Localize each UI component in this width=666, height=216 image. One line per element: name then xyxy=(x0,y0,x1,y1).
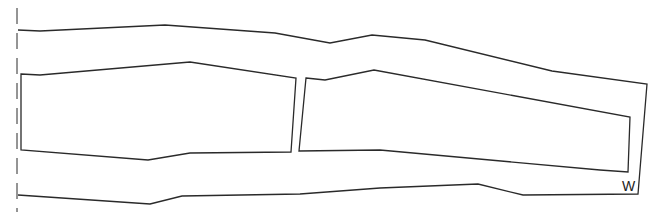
left-block xyxy=(21,62,296,160)
outline-drawing xyxy=(0,0,666,216)
diagram-canvas: W xyxy=(0,0,666,216)
right-block xyxy=(299,70,630,172)
outer-outline xyxy=(18,25,647,204)
diagram-label: W xyxy=(622,179,635,193)
